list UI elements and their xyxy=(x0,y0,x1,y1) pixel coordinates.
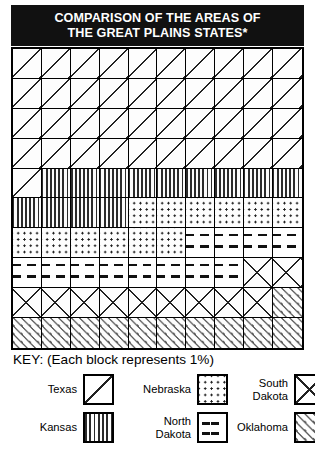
infographic-root: COMPARISON OF THE AREAS OF THE GREAT PLA… xyxy=(0,0,315,453)
waffle-grid xyxy=(13,49,302,348)
waffle-cell-texas xyxy=(215,139,244,169)
legend-items-container: TexasKansasNebraskaNorth DakotaSouth Dak… xyxy=(11,372,304,446)
waffle-cell-texas xyxy=(100,139,129,169)
waffle-cell-texas xyxy=(186,79,215,109)
waffle-cell-texas xyxy=(129,139,158,169)
waffle-cell-sdakota xyxy=(129,288,158,318)
legend-item-nebraska: Nebraska xyxy=(119,374,228,405)
waffle-cell-texas xyxy=(13,109,42,139)
waffle-cell-kansas xyxy=(215,169,244,199)
waffle-cell-oklahoma xyxy=(215,318,244,348)
waffle-cell-texas xyxy=(13,79,42,109)
waffle-cell-oklahoma xyxy=(244,318,273,348)
legend-item-ndakota: North Dakota xyxy=(119,412,228,443)
waffle-cell-oklahoma xyxy=(186,318,215,348)
waffle-grid-container xyxy=(11,47,304,350)
waffle-cell-texas xyxy=(215,109,244,139)
waffle-cell-kansas xyxy=(100,198,129,228)
chart-title-line-2: THE GREAT PLAINS STATES* xyxy=(67,26,247,41)
waffle-cell-oklahoma xyxy=(100,318,129,348)
waffle-cell-sdakota xyxy=(273,258,302,288)
waffle-cell-texas xyxy=(157,139,186,169)
waffle-cell-nebraska xyxy=(129,228,158,258)
waffle-cell-texas xyxy=(186,49,215,79)
waffle-cell-ndakota xyxy=(100,258,129,288)
waffle-cell-ndakota xyxy=(273,228,302,258)
legend-item-kansas: Kansas xyxy=(13,412,114,443)
waffle-cell-ndakota xyxy=(129,258,158,288)
legend-label-ndakota: North Dakota xyxy=(119,415,191,440)
waffle-cell-oklahoma xyxy=(71,318,100,348)
waffle-cell-texas xyxy=(157,79,186,109)
waffle-cell-texas xyxy=(129,49,158,79)
legend-label-texas: Texas xyxy=(13,383,77,396)
waffle-cell-nebraska xyxy=(129,198,158,228)
waffle-cell-ndakota xyxy=(244,228,273,258)
waffle-cell-kansas xyxy=(13,198,42,228)
waffle-cell-texas xyxy=(273,139,302,169)
legend-label-kansas: Kansas xyxy=(13,421,77,434)
waffle-cell-sdakota xyxy=(215,288,244,318)
legend-item-sdakota: South Dakota xyxy=(218,374,315,405)
legend-key-text: KEY: (Each block represents 1%) xyxy=(11,352,304,368)
legend-label-sdakota: South Dakota xyxy=(218,377,288,402)
waffle-cell-texas xyxy=(129,109,158,139)
waffle-cell-texas xyxy=(273,109,302,139)
waffle-cell-texas xyxy=(100,49,129,79)
waffle-cell-texas xyxy=(215,79,244,109)
waffle-cell-ndakota xyxy=(42,258,71,288)
waffle-cell-texas xyxy=(186,109,215,139)
waffle-cell-texas xyxy=(157,49,186,79)
waffle-cell-texas xyxy=(71,49,100,79)
waffle-cell-nebraska xyxy=(157,228,186,258)
waffle-cell-oklahoma xyxy=(273,318,302,348)
legend-label-oklahoma: Oklahoma xyxy=(218,421,288,434)
waffle-cell-oklahoma xyxy=(42,318,71,348)
waffle-cell-ndakota xyxy=(215,228,244,258)
waffle-cell-texas xyxy=(42,139,71,169)
waffle-cell-ndakota xyxy=(215,258,244,288)
waffle-cell-texas xyxy=(100,109,129,139)
waffle-cell-oklahoma xyxy=(273,288,302,318)
waffle-cell-texas xyxy=(244,139,273,169)
waffle-cell-kansas xyxy=(273,169,302,199)
waffle-cell-nebraska xyxy=(100,228,129,258)
waffle-cell-texas xyxy=(244,49,273,79)
waffle-cell-sdakota xyxy=(100,288,129,318)
waffle-cell-kansas xyxy=(71,169,100,199)
waffle-cell-sdakota xyxy=(244,288,273,318)
legend-swatch-oklahoma-icon xyxy=(294,412,315,443)
waffle-cell-texas xyxy=(71,109,100,139)
waffle-cell-ndakota xyxy=(186,258,215,288)
waffle-cell-texas xyxy=(71,139,100,169)
waffle-cell-texas xyxy=(129,79,158,109)
legend-swatch-sdakota-icon xyxy=(294,374,315,405)
waffle-cell-nebraska xyxy=(215,198,244,228)
waffle-cell-sdakota xyxy=(186,288,215,318)
waffle-cell-nebraska xyxy=(71,228,100,258)
waffle-cell-texas xyxy=(100,79,129,109)
waffle-cell-ndakota xyxy=(186,228,215,258)
waffle-cell-texas xyxy=(244,109,273,139)
waffle-cell-oklahoma xyxy=(157,318,186,348)
waffle-cell-texas xyxy=(273,49,302,79)
waffle-cell-nebraska xyxy=(157,198,186,228)
waffle-cell-sdakota xyxy=(13,288,42,318)
waffle-cell-kansas xyxy=(42,198,71,228)
waffle-cell-texas xyxy=(13,169,42,199)
waffle-cell-kansas xyxy=(244,169,273,199)
waffle-cell-ndakota xyxy=(157,258,186,288)
waffle-cell-texas xyxy=(215,49,244,79)
waffle-cell-ndakota xyxy=(71,258,100,288)
waffle-cell-nebraska xyxy=(186,198,215,228)
waffle-cell-nebraska xyxy=(13,228,42,258)
waffle-cell-kansas xyxy=(186,169,215,199)
waffle-cell-texas xyxy=(42,79,71,109)
waffle-cell-sdakota xyxy=(42,288,71,318)
chart-title-banner: COMPARISON OF THE AREAS OF THE GREAT PLA… xyxy=(11,5,304,46)
waffle-cell-sdakota xyxy=(157,288,186,318)
waffle-cell-texas xyxy=(42,109,71,139)
waffle-cell-nebraska xyxy=(273,198,302,228)
waffle-cell-texas xyxy=(157,109,186,139)
legend-item-oklahoma: Oklahoma xyxy=(218,412,315,443)
